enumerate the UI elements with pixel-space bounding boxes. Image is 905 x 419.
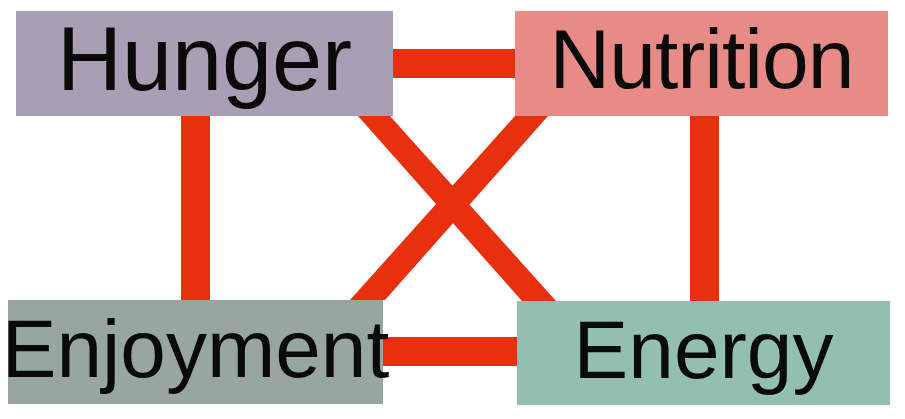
edge-enjoyment-energy	[382, 337, 518, 366]
edge-hunger-nutrition	[392, 49, 516, 78]
node-label: Nutrition	[550, 17, 854, 101]
relationship-diagram: Hunger Nutrition Enjoyment Energy	[0, 0, 905, 419]
node-hunger: Hunger	[16, 11, 393, 116]
node-enjoyment: Enjoyment	[8, 300, 383, 404]
edge-nutrition-energy	[690, 115, 719, 302]
node-energy: Energy	[517, 301, 890, 405]
node-label: Hunger	[57, 14, 352, 104]
edge-hunger-enjoyment	[181, 115, 210, 301]
node-label: Energy	[574, 309, 834, 391]
node-label: Enjoyment	[2, 308, 389, 390]
node-nutrition: Nutrition	[515, 11, 888, 116]
